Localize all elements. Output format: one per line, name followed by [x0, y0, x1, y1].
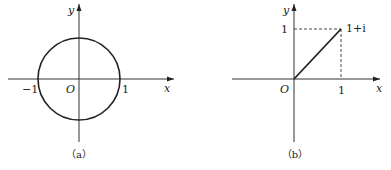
figure-canvas: y x O −1 1 （a） y x O 1 1 1+i （b） [0, 0, 391, 170]
origin-label-a: O [66, 83, 75, 96]
origin-label-b: O [280, 83, 289, 96]
point-label-1-plus-i: 1+i [346, 22, 366, 35]
y-axis-label-b: y [282, 4, 290, 17]
tick-label-neg1: −1 [22, 83, 38, 96]
tick-label-x1-b: 1 [338, 84, 345, 97]
segment-origin-to-1-plus-i [294, 29, 341, 79]
caption-a: （a） [66, 149, 92, 160]
x-axis-label-a: x [164, 82, 171, 95]
diagram-b: y x O 1 1 1+i （b） [232, 4, 383, 160]
caption-b: （b） [282, 149, 308, 160]
x-axis-label-b: x [376, 82, 383, 95]
diagram-a: y x O −1 1 （a） [8, 4, 174, 160]
y-axis-label-a: y [67, 4, 75, 17]
tick-label-y1-b: 1 [281, 23, 288, 36]
tick-label-1-a: 1 [122, 83, 129, 96]
